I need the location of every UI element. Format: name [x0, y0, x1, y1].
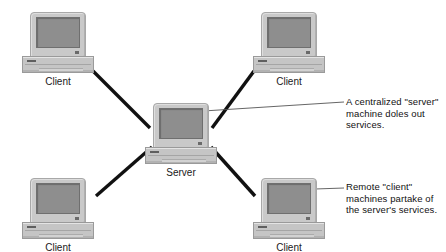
- drive-slot-icon: [150, 151, 159, 153]
- computer-client-bottom-right[interactable]: Client: [253, 178, 325, 240]
- drive-slot-icon: [27, 60, 36, 62]
- monitor: [261, 178, 317, 224]
- base-seam: [256, 64, 322, 65]
- computer-client-top-right[interactable]: Client: [253, 12, 325, 74]
- base-seam: [25, 64, 91, 65]
- node-label: Client: [22, 242, 94, 252]
- drive-slot-icon: [258, 60, 267, 62]
- floppy-drive-icon: [162, 159, 206, 162]
- power-led-icon: [75, 217, 79, 220]
- connection-top-right-to-server: [212, 71, 254, 128]
- screen: [267, 17, 311, 48]
- computer-server-center[interactable]: Server: [145, 103, 217, 165]
- monitor: [30, 178, 86, 224]
- node-label: Client: [22, 76, 94, 87]
- floppy-drive-icon: [270, 68, 314, 71]
- base-seam: [25, 230, 91, 231]
- annotation-server: A centralized "server" machine doles out…: [346, 96, 442, 131]
- base-seam: [256, 230, 322, 231]
- computer-client-bottom-left[interactable]: Client: [22, 178, 94, 240]
- node-label: Client: [253, 242, 325, 252]
- floppy-drive-icon: [39, 68, 83, 71]
- computer-base: [22, 222, 94, 239]
- monitor: [153, 103, 209, 149]
- monitor: [30, 12, 86, 58]
- computer-base: [253, 56, 325, 73]
- node-label: Server: [145, 167, 217, 178]
- node-label: Client: [253, 76, 325, 87]
- drive-slot-icon: [258, 226, 267, 228]
- power-led-icon: [306, 51, 310, 54]
- floppy-drive-icon: [270, 234, 314, 237]
- drive-slot-icon: [27, 226, 36, 228]
- annotation-client: Remote "client" machines partake of the …: [346, 181, 442, 216]
- floppy-drive-icon: [39, 234, 83, 237]
- connection-top-left-to-server: [93, 71, 150, 128]
- connection-bottom-right-to-server: [211, 147, 255, 196]
- power-led-icon: [198, 142, 202, 145]
- connection-bottom-left-to-server: [96, 147, 152, 196]
- computer-base: [253, 222, 325, 239]
- screen: [267, 183, 311, 214]
- computer-base: [145, 147, 217, 164]
- network-diagram: Client Client Server: [0, 0, 446, 252]
- screen: [36, 183, 80, 214]
- base-seam: [148, 155, 214, 156]
- power-led-icon: [306, 217, 310, 220]
- screen: [36, 17, 80, 48]
- monitor: [261, 12, 317, 58]
- computer-client-top-left[interactable]: Client: [22, 12, 94, 74]
- computer-base: [22, 56, 94, 73]
- power-led-icon: [75, 51, 79, 54]
- screen: [159, 108, 203, 139]
